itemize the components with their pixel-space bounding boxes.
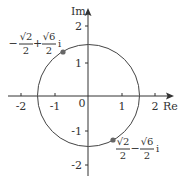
x-tick-label: -1 [50, 100, 61, 113]
y-tick-label: -1 [71, 125, 82, 138]
label-lower-right: √2 2 − √6 2 i [116, 136, 159, 161]
complex-plane-diagram: -2 -1 1 2 0 2 1 -1 -2 Re Im − √2 2 + √6 … [0, 0, 185, 187]
label-upper-left: − √2 2 + √6 2 i [8, 31, 61, 56]
imaginary-unit: i [58, 38, 61, 49]
fraction-numerator: √6 [141, 136, 154, 147]
point-lower-right [110, 137, 115, 142]
y-tick-label: 2 [75, 20, 82, 33]
x-tick-label: 1 [119, 100, 126, 113]
x-axis-label: Re [163, 100, 178, 113]
y-tick-label: 1 [75, 57, 82, 70]
fraction-denominator: 2 [144, 150, 150, 161]
fraction-numerator: √2 [117, 136, 130, 147]
imaginary-unit: i [156, 143, 159, 154]
x-tick-label: -2 [16, 100, 27, 113]
point-upper-left [60, 49, 65, 54]
operator: + [33, 37, 42, 50]
y-axis-label: Im [71, 5, 86, 18]
fraction-numerator: √2 [20, 31, 33, 42]
y-tick-label: -2 [71, 159, 82, 172]
origin-label: 0 [79, 97, 86, 110]
operator: − [130, 142, 139, 155]
fraction-denominator: 2 [46, 45, 52, 56]
fraction-denominator: 2 [23, 45, 29, 56]
fraction-numerator: √6 [43, 31, 56, 42]
x-tick-label: 2 [152, 100, 159, 113]
sign: − [8, 37, 17, 50]
fraction-denominator: 2 [120, 150, 126, 161]
